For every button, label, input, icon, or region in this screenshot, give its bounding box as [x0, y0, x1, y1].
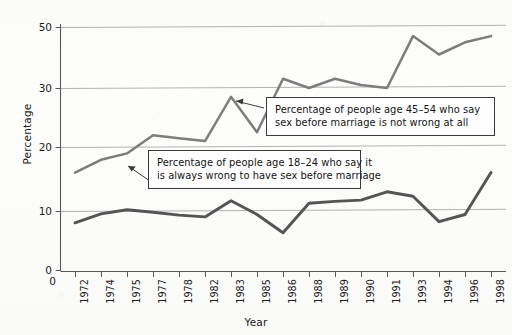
annotation-callout-age-18-24: Percentage of people age 18–24 who say i… [148, 150, 361, 189]
x-tick-label-1975: 1975 [131, 279, 142, 304]
x-axis-title: Year [0, 316, 512, 328]
y-tick-label-10: 10 [26, 206, 52, 217]
x-tickmarks-group [76, 272, 492, 278]
x-axis-origin-zero-label: 0 [34, 276, 56, 287]
x-tick-label-1994: 1994 [443, 279, 454, 304]
x-tick-label-1977: 1977 [157, 279, 168, 304]
y-tick-label-50: 50 [26, 22, 52, 33]
x-tick-label-1985: 1985 [261, 279, 272, 304]
x-tick-label-1991: 1991 [391, 279, 402, 304]
x-tick-label-1993: 1993 [417, 279, 428, 304]
x-tick-label-1988: 1988 [313, 279, 324, 304]
gridline-30 [61, 86, 506, 88]
callout-1824-line2: is always wrong to have sex before marri… [157, 169, 353, 182]
x-tick-label-1974: 1974 [105, 279, 116, 304]
x-tick-label-1983: 1983 [235, 279, 246, 304]
x-tick-label-1986: 1986 [287, 279, 298, 304]
y-tick-label-0: 0 [26, 265, 52, 276]
x-tick-label-1989: 1989 [339, 279, 350, 304]
callout-4554-line1: Percentage of people age 45–54 who say [275, 103, 487, 116]
gridline-20 [61, 145, 506, 147]
y-tick-label-20: 20 [26, 142, 52, 153]
chart-figure: Percentage Year 5030201000 1972197419751… [0, 0, 512, 335]
x-tick-label-1978: 1978 [183, 279, 194, 304]
x-tick-label-1972: 1972 [79, 279, 90, 304]
x-tick-label-1990: 1990 [365, 279, 376, 304]
y-axis-title: Percentage [21, 89, 33, 179]
y-tick-label-30: 30 [26, 83, 52, 94]
gridline-50 [61, 25, 506, 27]
callout-1824-line1: Percentage of people age 18–24 who say i… [157, 156, 353, 169]
x-tick-label-1998: 1998 [495, 279, 506, 304]
callout-4554-line2: sex before marriage is not wrong at all [275, 116, 487, 129]
x-tick-label-1996: 1996 [469, 279, 480, 304]
x-tick-label-1982: 1982 [209, 279, 220, 304]
axis-lines-group [61, 24, 507, 272]
annotation-callout-age-45-54: Percentage of people age 45–54 who say s… [266, 97, 495, 136]
